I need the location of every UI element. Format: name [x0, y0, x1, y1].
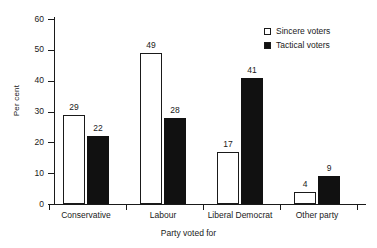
legend: Sincere voters Tactical voters [264, 25, 330, 53]
legend-item-sincere: Sincere voters [264, 25, 330, 37]
x-tick-label: Other party [267, 210, 367, 220]
y-tick-label: 40 [20, 76, 44, 85]
bar [63, 115, 85, 204]
bar-chart: Per cent 0102030405060 29224928174149 Co… [0, 0, 377, 248]
bar [87, 136, 109, 204]
bar [318, 176, 340, 204]
x-axis-title: Party voted for [0, 228, 377, 238]
legend-label-tactical: Tactical voters [276, 39, 330, 51]
legend-swatch-open-icon [264, 28, 271, 35]
bar-value-label: 29 [59, 103, 89, 112]
legend-swatch-filled-icon [264, 42, 271, 49]
bar-value-label: 41 [237, 66, 267, 75]
y-tick-label: 60 [20, 15, 44, 24]
bar-value-label: 17 [213, 140, 243, 149]
bar-value-label: 28 [160, 106, 190, 115]
x-axis-line [48, 204, 366, 205]
legend-item-tactical: Tactical voters [264, 39, 330, 51]
bar [140, 53, 162, 204]
y-tick-label: 20 [20, 138, 44, 147]
bar-value-label: 22 [83, 124, 113, 133]
y-tick-label: 30 [20, 107, 44, 116]
bar [294, 192, 316, 204]
y-tick-label: 10 [20, 169, 44, 178]
bar-value-label: 9 [314, 164, 344, 173]
bar [217, 152, 239, 204]
y-tick-label: 0 [20, 200, 44, 209]
legend-label-sincere: Sincere voters [276, 25, 330, 37]
bar [241, 78, 263, 204]
bar-value-label: 49 [136, 41, 166, 50]
bar [164, 118, 186, 204]
y-tick-label: 50 [20, 45, 44, 54]
bar-value-label: 4 [290, 180, 320, 189]
